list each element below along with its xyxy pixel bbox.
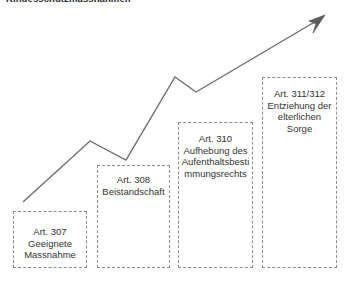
measure-box-art-311-312: Art. 311/312 Entziehung der elterlichen … — [262, 77, 337, 268]
measure-box-art-310: Art. 310 Aufhebung des Aufenthaltsbestim… — [178, 122, 253, 268]
measure-box-label: Art. 308 Beistandschaft — [98, 174, 169, 197]
measure-box-label: Art. 311/312 Entziehung der elterlichen … — [263, 88, 336, 134]
measure-box-label: Art. 307 Geeignete Massnahme — [14, 226, 86, 261]
measure-box-art-307: Art. 307 Geeignete Massnahme — [13, 211, 87, 268]
escalation-diagram: Kindesschutzmassnahmen Art. 307 Geeignet… — [0, 0, 350, 283]
measure-box-art-308: Art. 308 Beistandschaft — [97, 165, 170, 268]
measure-box-label: Art. 310 Aufhebung des Aufenthaltsbestim… — [179, 133, 252, 179]
